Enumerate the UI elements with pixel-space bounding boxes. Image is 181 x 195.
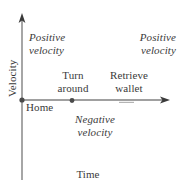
- event-label-home: Home: [26, 101, 53, 114]
- y-axis-title: Velocity: [6, 52, 19, 104]
- annotation-positive-velocity-left: Positive velocity: [29, 31, 65, 56]
- annotation-negative-velocity: Negative velocity: [61, 113, 129, 138]
- annotation-positive-velocity-right: Positive velocity: [128, 31, 176, 56]
- event-label-retrieve-wallet: Retrieve wallet: [100, 69, 158, 94]
- event-label-turn-around: Turn around: [48, 69, 98, 94]
- x-axis-title: Time: [62, 168, 114, 181]
- marker-dot-turn-around: [70, 98, 75, 103]
- axes-and-markers: [0, 0, 181, 195]
- velocity-time-diagram: Positive velocity Positive velocity Nega…: [0, 0, 181, 195]
- marker-dot-home: [19, 97, 24, 102]
